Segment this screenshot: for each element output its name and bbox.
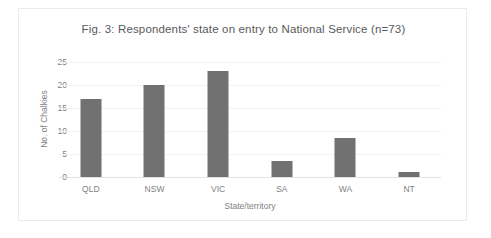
bar-sa[interactable] (271, 161, 292, 177)
x-tick-label-nsw: NSW (145, 184, 165, 194)
bar-nsw[interactable] (144, 85, 165, 177)
bar-slot (250, 62, 314, 177)
bar-slot (186, 62, 250, 177)
x-axis-title: State/territory (59, 201, 441, 211)
gridline-0 (59, 177, 441, 178)
x-tick-label-sa: SA (276, 184, 287, 194)
bar-slot (123, 62, 187, 177)
bar-slot (377, 62, 441, 177)
bar-vic[interactable] (208, 71, 229, 177)
x-tick-label-nt: NT (403, 184, 414, 194)
bar-slot (314, 62, 378, 177)
bar-nt[interactable] (399, 172, 420, 177)
figure-container: Fig. 3: Respondents' state on entry to N… (18, 8, 467, 221)
x-tick-label-qld: QLD (82, 184, 99, 194)
bar-qld[interactable] (80, 99, 101, 177)
plot-area (59, 62, 441, 177)
x-tick-label-vic: VIC (211, 184, 225, 194)
x-tick-label-wa: WA (339, 184, 352, 194)
bar-slot (59, 62, 123, 177)
bar-wa[interactable] (335, 138, 356, 177)
chart-title: Fig. 3: Respondents' state on entry to N… (19, 23, 468, 35)
